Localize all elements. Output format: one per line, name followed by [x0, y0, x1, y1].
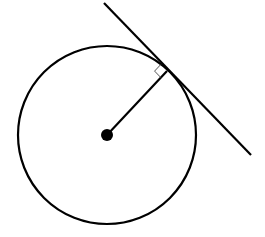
tangent-line	[104, 3, 251, 155]
right-angle-marker	[155, 65, 161, 78]
radius-segment	[107, 71, 167, 135]
center-point	[101, 129, 113, 141]
tangent-circle-diagram	[0, 0, 265, 237]
